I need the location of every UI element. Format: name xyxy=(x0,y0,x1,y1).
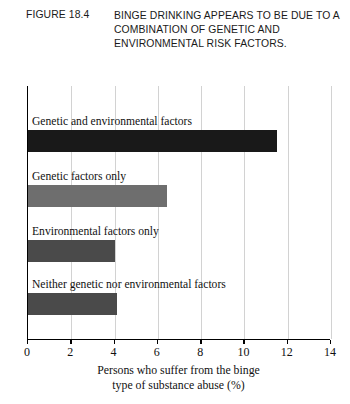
x-axis-tick xyxy=(27,340,28,344)
x-axis-tick-label: 6 xyxy=(154,345,160,360)
x-axis-tick-label: 2 xyxy=(67,345,73,360)
bar-category-label: Genetic and environmental factors xyxy=(32,115,192,128)
bar-group: Genetic and environmental factors xyxy=(28,130,331,152)
x-axis-tick-label: 8 xyxy=(197,345,203,360)
x-axis-tick xyxy=(70,340,71,344)
bar[interactable] xyxy=(28,130,277,152)
bar-group: Genetic factors only xyxy=(28,185,331,207)
bar-category-label: Genetic factors only xyxy=(32,170,126,183)
bar[interactable] xyxy=(28,185,167,207)
bar-category-label: Neither genetic nor environmental factor… xyxy=(32,278,226,291)
x-axis-caption-line-1: Persons who suffer from the binge xyxy=(27,363,330,378)
bar-group: Environmental factors only xyxy=(28,240,331,262)
x-axis-tick xyxy=(114,340,115,344)
x-axis-tick xyxy=(330,340,331,344)
x-axis-tick-label: 0 xyxy=(24,345,30,360)
bar-chart: Genetic and environmental factorsGenetic… xyxy=(0,0,350,404)
bar[interactable] xyxy=(28,240,115,262)
x-axis-tick-label: 12 xyxy=(281,345,293,360)
x-axis-caption: Persons who suffer from the binge type o… xyxy=(27,363,330,392)
x-axis-tick xyxy=(200,340,201,344)
gridline xyxy=(331,86,332,339)
x-axis-tick xyxy=(157,340,158,344)
x-axis-tick xyxy=(287,340,288,344)
x-axis-tick-label: 14 xyxy=(324,345,336,360)
bar-category-label: Environmental factors only xyxy=(32,225,159,238)
x-axis-tick-label: 10 xyxy=(237,345,249,360)
x-axis-caption-line-2: type of substance abuse (%) xyxy=(27,378,330,393)
x-axis-tick-label: 4 xyxy=(111,345,117,360)
bar[interactable] xyxy=(28,293,117,315)
bar-group: Neither genetic nor environmental factor… xyxy=(28,293,331,315)
x-axis-tick xyxy=(243,340,244,344)
plot-area: Genetic and environmental factorsGenetic… xyxy=(27,86,330,340)
